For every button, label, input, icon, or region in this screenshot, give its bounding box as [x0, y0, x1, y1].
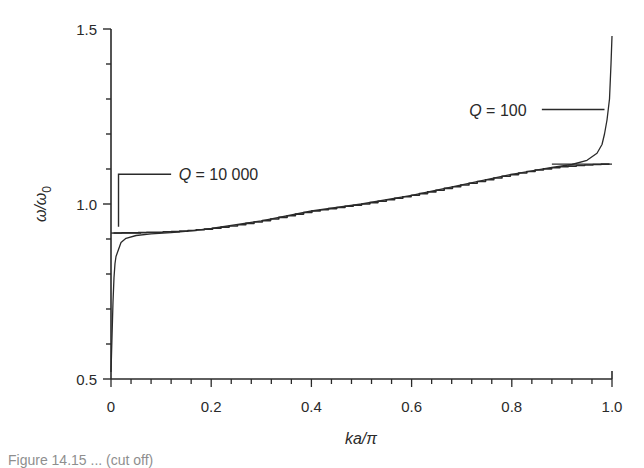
- y-tick-label: 1.5: [76, 21, 97, 38]
- tick-labels: 00.20.40.60.81.00.51.01.5: [76, 21, 622, 415]
- x-axis-title: ka/π: [345, 430, 377, 447]
- x-tick-label: 0.6: [401, 398, 422, 415]
- y-tick-label: 0.5: [76, 371, 97, 388]
- y-axis-title: ω/ω0: [32, 186, 54, 222]
- x-tick-label: 0.4: [301, 398, 322, 415]
- y-tick-label: 1.0: [76, 196, 97, 213]
- series-q-100: [111, 36, 612, 372]
- figure-caption: Figure 14.15 ... (cut off): [8, 452, 153, 468]
- q-10000-leader-line: [119, 174, 172, 227]
- q-100-label: Q = 100: [469, 102, 526, 119]
- y-axis-title-subscript: 0: [40, 186, 54, 193]
- svg-text:ω/ω0: ω/ω0: [32, 186, 54, 222]
- q-10000-label: Q = 10 000: [179, 166, 259, 183]
- tick-marks: [103, 29, 612, 387]
- x-tick-label: 0: [107, 398, 115, 415]
- x-tick-label: 0.8: [501, 398, 522, 415]
- x-tick-label: 1.0: [602, 398, 623, 415]
- x-tick-label: 0.2: [201, 398, 222, 415]
- annotations: Q = 10 000Q = 100: [119, 102, 605, 227]
- data-series: [111, 36, 612, 372]
- y-axis-title-main: ω/ω: [32, 193, 49, 222]
